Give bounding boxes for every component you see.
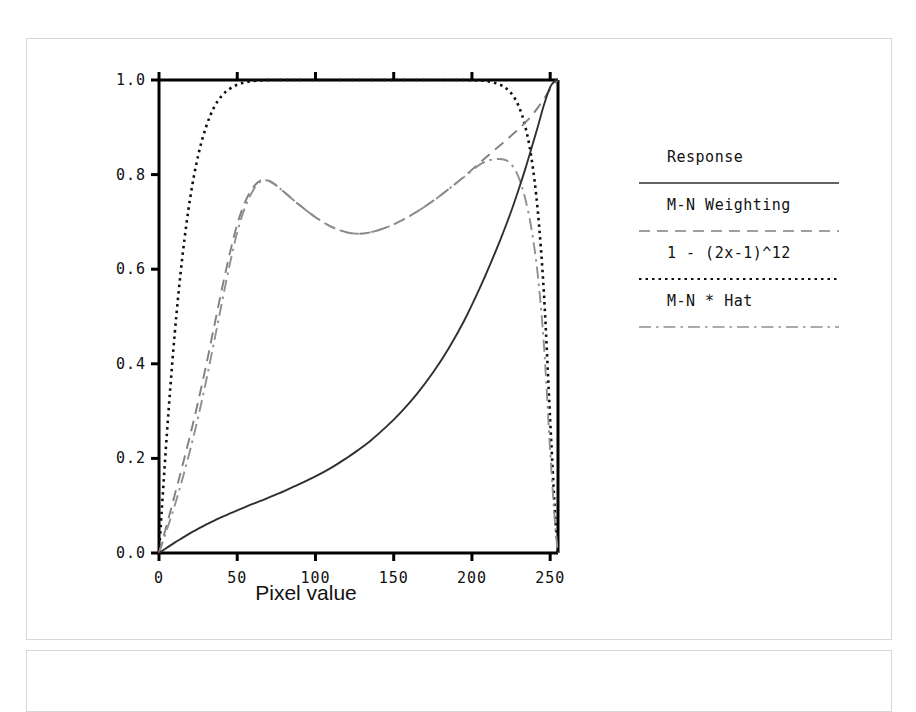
legend-line-sample xyxy=(639,218,839,222)
curve-m-n-weighting xyxy=(159,80,558,553)
legend-label: 1 - (2x-1)^12 xyxy=(667,244,791,262)
legend-line-sample xyxy=(639,170,839,174)
legend-label: Response xyxy=(667,148,743,166)
curves-layer xyxy=(159,80,558,553)
chart-figure: 0.00.20.40.60.81.0 050100150200250 Pixel… xyxy=(26,38,890,638)
legend-label: M-N * Hat xyxy=(667,292,753,310)
y-tick-label: 1.0 xyxy=(64,71,146,89)
curve-response xyxy=(159,80,558,553)
curve-m-n-hat xyxy=(159,159,558,553)
legend-entry[interactable]: Response xyxy=(639,148,879,196)
x-axis-title: Pixel value xyxy=(26,581,586,605)
legend-line-sample xyxy=(639,266,839,270)
legend-line-sample xyxy=(639,314,839,318)
axes-layer xyxy=(151,72,558,561)
legend-entry[interactable]: M-N Weighting xyxy=(639,196,879,244)
legend-entry[interactable]: 1 - (2x-1)^12 xyxy=(639,244,879,292)
y-tick-label: 0.0 xyxy=(64,544,146,562)
legend-entry[interactable]: M-N * Hat xyxy=(639,292,879,340)
legend-label: M-N Weighting xyxy=(667,196,791,214)
curve-1-2x-1-12 xyxy=(159,80,558,553)
y-tick-label: 0.2 xyxy=(64,449,146,467)
y-tick-label: 0.4 xyxy=(64,355,146,373)
y-tick-label: 0.8 xyxy=(64,166,146,184)
secondary-frame xyxy=(26,650,892,712)
y-tick-label: 0.6 xyxy=(64,260,146,278)
legend: ResponseM-N Weighting1 - (2x-1)^12M-N * … xyxy=(639,148,879,340)
